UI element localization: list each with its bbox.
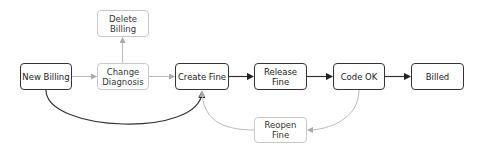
node-label: Release Fine	[264, 67, 297, 87]
edge-reopen-to-create	[202, 92, 254, 130]
node-billed[interactable]: Billed	[411, 63, 464, 90]
edge-code-to-reopen	[308, 90, 359, 130]
node-code-ok[interactable]: Code OK	[333, 63, 385, 90]
node-release-fine[interactable]: Release Fine	[254, 63, 307, 90]
node-label: Change Diagnosis	[102, 67, 143, 87]
node-label: Billed	[426, 72, 450, 82]
node-label: Code OK	[341, 72, 378, 82]
node-create-fine[interactable]: Create Fine	[175, 63, 229, 90]
node-delete-billing[interactable]: Delete Billing	[97, 10, 149, 37]
edges-layer	[0, 0, 481, 152]
node-change-diagnosis[interactable]: Change Diagnosis	[97, 63, 149, 90]
node-new-billing[interactable]: New Billing	[20, 63, 72, 90]
node-label: Create Fine	[178, 72, 226, 82]
node-label: Delete Billing	[109, 14, 137, 34]
node-label: Reopen Fine	[265, 120, 297, 140]
node-label: New Billing	[22, 72, 69, 82]
node-reopen-fine[interactable]: Reopen Fine	[254, 117, 307, 143]
edge-new-to-create	[46, 90, 202, 124]
